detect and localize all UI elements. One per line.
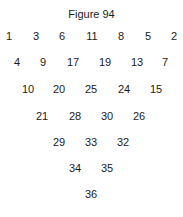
- triangle-number: 30: [101, 110, 113, 122]
- triangle-number: 29: [53, 136, 65, 148]
- triangle-number: 25: [85, 83, 97, 95]
- triangle-number: 26: [133, 110, 145, 122]
- triangle-number: 20: [53, 83, 65, 95]
- triangle-number: 5: [145, 30, 151, 42]
- triangle-number: 7: [162, 56, 168, 68]
- triangle-number: 9: [40, 56, 46, 68]
- triangle-number: 11: [86, 30, 97, 42]
- triangle-number: 8: [118, 30, 124, 42]
- triangle-number: 6: [59, 30, 65, 42]
- triangle-number: 33: [85, 136, 97, 148]
- triangle-number: 24: [118, 83, 130, 95]
- triangle-number: 4: [14, 56, 20, 68]
- triangle-number: 21: [36, 110, 48, 122]
- figure-title: Figure 94: [0, 8, 183, 20]
- triangle-number: 15: [150, 83, 162, 95]
- triangle-number: 36: [85, 188, 97, 200]
- triangle-number: 2: [171, 30, 177, 42]
- triangle-number: 10: [22, 83, 34, 95]
- triangle-number: 19: [99, 56, 111, 68]
- triangle-number: 34: [69, 162, 81, 174]
- triangle-number: 32: [117, 136, 129, 148]
- triangle-number: 28: [69, 110, 81, 122]
- triangle-number: 1: [6, 30, 12, 42]
- triangle-number: 17: [67, 56, 79, 68]
- triangle-number: 35: [101, 162, 113, 174]
- triangle-number: 3: [33, 30, 39, 42]
- triangle-number: 13: [131, 56, 143, 68]
